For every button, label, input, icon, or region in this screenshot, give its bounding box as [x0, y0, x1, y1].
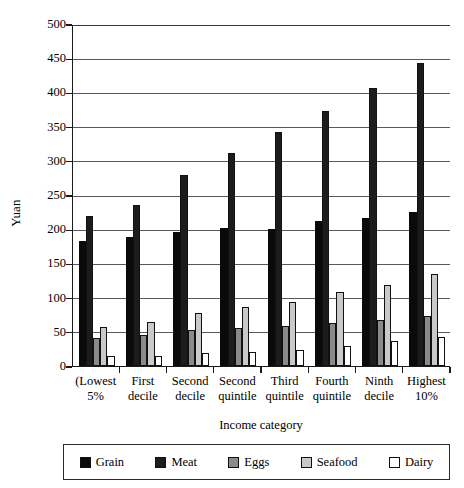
bar-group — [79, 25, 115, 366]
y-axis-tick — [66, 298, 72, 299]
x-axis-tick — [213, 367, 214, 373]
bar-groups — [73, 25, 450, 366]
y-axis-tick-label: 500 — [32, 18, 66, 31]
y-axis-tick — [66, 59, 72, 60]
bar-dairy — [438, 337, 445, 366]
y-axis-tick — [66, 127, 72, 128]
bar-seafood — [147, 322, 154, 366]
bar-eggs — [93, 338, 100, 366]
bar-eggs — [188, 330, 195, 366]
y-axis-tick — [66, 366, 72, 367]
bar-eggs — [140, 335, 147, 366]
legend-item[interactable]: Seafood — [301, 456, 358, 469]
bar-eggs — [235, 328, 242, 366]
bar-grain — [173, 232, 180, 366]
x-axis-category-labels: (Lowest5%FirstdecileSeconddecileSecondqu… — [72, 374, 450, 414]
bar-grain — [409, 212, 416, 366]
y-axis-tick — [66, 332, 72, 333]
legend-label: Dairy — [405, 456, 433, 469]
legend-label: Eggs — [244, 456, 269, 469]
bar-dairy — [155, 356, 162, 366]
legend-item[interactable]: Dairy — [389, 456, 433, 469]
bar-meat — [228, 153, 235, 366]
y-axis-title: Yuan — [6, 168, 26, 258]
legend-swatch-icon — [80, 457, 91, 468]
y-axis-tick-label: 350 — [32, 121, 66, 134]
y-axis-tick — [66, 230, 72, 231]
bar-meat — [417, 63, 424, 366]
bar-grain — [126, 237, 133, 366]
bar-seafood — [100, 327, 107, 366]
y-axis-title-text: Yuan — [8, 199, 24, 227]
bar-dairy — [249, 352, 256, 366]
plot-area — [72, 25, 450, 367]
bar-seafood — [384, 285, 391, 366]
bar-seafood — [289, 302, 296, 366]
legend-swatch-icon — [228, 457, 239, 468]
bar-grain — [362, 218, 369, 366]
legend-label: Meat — [171, 456, 197, 469]
y-axis-tick — [66, 195, 72, 196]
x-axis-tick — [260, 367, 261, 373]
bar-meat — [86, 216, 93, 366]
bar-chart: Yuan 050100150200250300350400450500 (Low… — [0, 0, 464, 488]
bar-dairy — [296, 350, 303, 366]
legend-label: Seafood — [317, 456, 358, 469]
y-axis-tick — [66, 24, 72, 25]
bar-group — [173, 25, 209, 366]
bar-meat — [322, 111, 329, 366]
y-axis-tick-label: 150 — [32, 257, 66, 270]
bar-seafood — [431, 274, 438, 366]
legend-item[interactable]: Eggs — [228, 456, 269, 469]
legend-swatch-icon — [301, 457, 312, 468]
x-axis-tick — [119, 367, 120, 373]
bar-dairy — [107, 356, 114, 366]
bar-meat — [133, 205, 140, 366]
x-axis-tick — [402, 367, 403, 373]
x-axis-category-label: Highest10% — [397, 374, 456, 404]
bar-eggs — [282, 326, 289, 366]
bar-meat — [369, 88, 376, 366]
y-axis-tick-label: 100 — [32, 292, 66, 305]
x-axis-label-line: 10% — [397, 389, 456, 404]
legend-swatch-icon — [155, 457, 166, 468]
bar-grain — [315, 221, 322, 366]
bar-group — [362, 25, 398, 366]
x-axis-label-line: Highest — [397, 374, 456, 389]
bar-dairy — [202, 353, 209, 366]
bar-dairy — [344, 346, 351, 366]
bar-meat — [180, 175, 187, 366]
bar-grain — [220, 228, 227, 366]
bar-seafood — [195, 313, 202, 366]
x-axis-tick — [449, 367, 450, 373]
chart-legend: GrainMeatEggsSeafoodDairy — [63, 444, 450, 480]
x-axis-tick — [355, 367, 356, 373]
bar-eggs — [377, 320, 384, 366]
bar-group — [268, 25, 304, 366]
y-axis-tick-label: 300 — [32, 155, 66, 168]
bar-group — [315, 25, 351, 366]
y-axis-tick-label: 450 — [32, 52, 66, 65]
y-axis-tick-label: 50 — [32, 326, 66, 339]
x-axis-tick — [166, 367, 167, 373]
y-axis-tick-label: 200 — [32, 223, 66, 236]
y-axis-labels: 050100150200250300350400450500 — [24, 0, 66, 488]
bar-dairy — [391, 341, 398, 366]
bar-eggs — [424, 316, 431, 366]
y-axis-tick — [66, 93, 72, 94]
bar-group — [126, 25, 162, 366]
bar-meat — [275, 132, 282, 366]
legend-item[interactable]: Meat — [155, 456, 197, 469]
legend-label: Grain — [96, 456, 124, 469]
legend-swatch-icon — [389, 457, 400, 468]
y-axis-tick-label: 0 — [32, 360, 66, 373]
x-axis-title: Income category — [72, 418, 450, 433]
bar-group — [220, 25, 256, 366]
bar-grain — [268, 229, 275, 366]
legend-item[interactable]: Grain — [80, 456, 124, 469]
bar-seafood — [336, 292, 343, 366]
y-axis-tick-label: 400 — [32, 86, 66, 99]
bar-seafood — [242, 307, 249, 367]
x-axis-tick — [308, 367, 309, 373]
bar-grain — [79, 241, 86, 366]
